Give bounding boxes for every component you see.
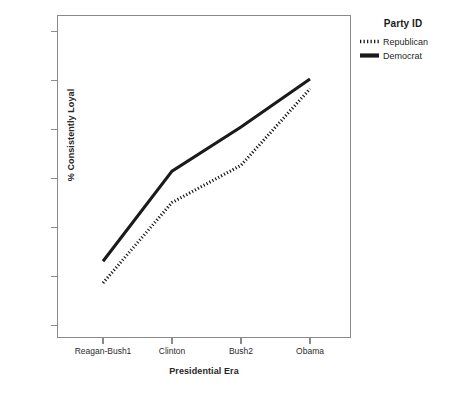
legend-item-republican[interactable]: Republican [359, 35, 459, 48]
legend-title: Party ID [359, 18, 447, 29]
series-line-republican [103, 89, 310, 283]
chart-page: % Consistently Loyal 85 80 75 70 65 60 5… [0, 0, 459, 402]
dotted-line-swatch-icon [359, 35, 382, 48]
solid-line-swatch-icon [359, 49, 382, 62]
series-line-democrat [103, 79, 310, 261]
legend-label-democrat: Democrat [383, 51, 422, 61]
legend-item-democrat[interactable]: Democrat [359, 49, 459, 62]
legend-label-republican: Republican [383, 37, 428, 47]
legend: Party ID Republican Democrat [359, 18, 459, 63]
